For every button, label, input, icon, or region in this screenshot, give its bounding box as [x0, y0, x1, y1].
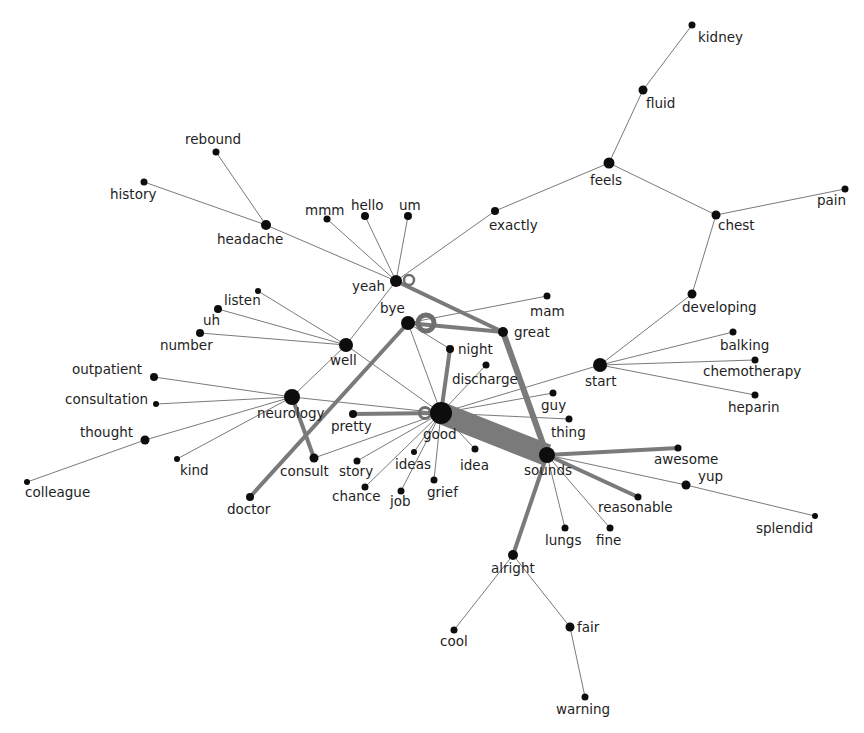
edge-um-yeah	[396, 216, 408, 281]
node-label-great: great	[514, 324, 550, 340]
node-sounds	[539, 447, 555, 463]
node-developing	[688, 290, 697, 299]
node-label-fair: fair	[577, 619, 600, 635]
node-label-good: good	[423, 426, 457, 442]
node-label-neurology: neurology	[257, 405, 325, 421]
node-label-alright: alright	[491, 560, 535, 576]
node-night	[446, 345, 454, 353]
edge-listen-well	[258, 291, 346, 345]
node-label-bye: bye	[380, 300, 405, 316]
node-label-yeah: yeah	[352, 278, 385, 294]
node-label-thing: thing	[551, 424, 586, 440]
node-label-feels: feels	[590, 172, 622, 188]
node-label-pain: pain	[817, 192, 846, 208]
edge-kidney-fluid	[643, 25, 692, 90]
edge-colleague-thought	[27, 440, 145, 482]
edge-yup-splendid	[686, 485, 815, 516]
edge-fluid-feels	[609, 90, 643, 163]
node-label-listen: listen	[224, 292, 261, 308]
node-label-awesome: awesome	[654, 451, 718, 467]
node-label-night: night	[458, 341, 493, 357]
node-alright	[508, 550, 518, 560]
node-label-developing: developing	[682, 299, 757, 315]
node-rebound	[213, 149, 220, 156]
node-well	[339, 338, 353, 352]
node-discharge	[483, 362, 490, 369]
node-label-story: story	[339, 463, 373, 479]
node-headache	[261, 220, 271, 230]
edge-feels-chest	[609, 163, 716, 215]
node-label-grief: grief	[427, 484, 459, 500]
node-label-lungs: lungs	[545, 532, 581, 548]
node-label-heparin: heparin	[728, 399, 780, 415]
node-label-warning: warning	[556, 701, 610, 717]
edge-mmm-yeah	[327, 219, 396, 281]
node-label-rebound: rebound	[185, 131, 241, 147]
edges-layer	[27, 25, 845, 697]
node-pretty	[349, 410, 357, 418]
node-start	[593, 358, 607, 372]
edge-start-balking	[600, 332, 733, 365]
node-ideas	[411, 449, 417, 455]
network-diagram: kidneyfluidfeelspainchestexactlyreboundh…	[0, 0, 864, 733]
node-um	[404, 212, 412, 220]
node-label-mmm: mmm	[305, 202, 344, 218]
node-lungs	[562, 525, 569, 532]
node-label-cool: cool	[440, 633, 468, 649]
node-label-consult: consult	[280, 463, 329, 479]
node-label-guy: guy	[541, 397, 566, 413]
node-thought	[141, 436, 150, 445]
node-label-doctor: doctor	[227, 501, 271, 517]
node-label-sounds: sounds	[524, 462, 572, 478]
node-mam	[544, 293, 551, 300]
node-feels	[604, 158, 615, 169]
node-label-kind: kind	[180, 462, 209, 478]
node-label-ideas: ideas	[395, 456, 431, 472]
node-fluid	[639, 86, 648, 95]
node-bye	[401, 316, 415, 330]
node-label-well: well	[330, 352, 357, 368]
node-great	[498, 327, 508, 337]
node-label-chance: chance	[332, 488, 381, 504]
node-label-chemotherapy: chemotherapy	[703, 363, 801, 379]
node-good	[430, 402, 452, 424]
edge-hello-yeah	[365, 216, 396, 281]
self-loop-yeah	[404, 275, 414, 285]
node-grief	[431, 477, 438, 484]
node-label-colleague: colleague	[25, 484, 90, 500]
node-kidney	[689, 22, 696, 29]
node-label-reasonable: reasonable	[598, 499, 673, 515]
edge-bye-good	[408, 323, 441, 413]
node-label-kidney: kidney	[698, 29, 743, 45]
node-label-pretty: pretty	[331, 418, 372, 434]
node-label-job: job	[389, 493, 411, 509]
node-label-splendid: splendid	[756, 520, 813, 536]
node-guy	[550, 390, 557, 397]
node-label-fine: fine	[596, 532, 621, 548]
node-label-balking: balking	[720, 337, 769, 353]
edge-fair-warning	[570, 627, 585, 697]
node-label-start: start	[585, 373, 616, 389]
edge-outpatient-neurology	[154, 377, 292, 397]
node-label-mam: mam	[530, 303, 565, 319]
node-label-idea: idea	[460, 457, 489, 473]
node-neurology	[284, 389, 300, 405]
node-thing	[566, 416, 573, 423]
node-label-um: um	[399, 197, 421, 213]
node-doctor	[246, 493, 254, 501]
node-label-outpatient: outpatient	[72, 361, 142, 377]
node-label-fluid: fluid	[646, 95, 675, 111]
node-outpatient	[150, 373, 158, 381]
node-exactly	[491, 207, 499, 215]
node-label-number: number	[160, 337, 213, 353]
edge-rebound-headache	[216, 152, 266, 225]
edge-well-good	[346, 345, 441, 413]
node-consultation	[153, 401, 159, 407]
node-fine	[607, 525, 614, 532]
node-yup	[682, 481, 691, 490]
node-consult	[310, 454, 319, 463]
node-label-exactly: exactly	[489, 217, 538, 233]
node-idea	[472, 446, 479, 453]
node-label-yup: yup	[698, 468, 723, 484]
node-hello	[361, 212, 369, 220]
